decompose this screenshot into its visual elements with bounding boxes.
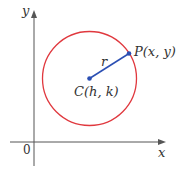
point-p [127, 51, 132, 56]
radius-segment [90, 54, 130, 79]
center-label: C(h, k) [74, 84, 119, 99]
y-axis-label: y [21, 3, 30, 18]
radius-label: r [101, 54, 108, 69]
origin-label: 0 [23, 143, 31, 157]
y-axis [31, 10, 37, 166]
center-point [87, 76, 92, 81]
circle-diagram: y x 0 r C(h, k) P(x, y) [0, 0, 181, 173]
point-label: P(x, y) [133, 44, 176, 59]
x-axis [10, 139, 166, 145]
y-axis-arrow-icon [31, 10, 37, 18]
x-axis-label: x [158, 145, 166, 160]
